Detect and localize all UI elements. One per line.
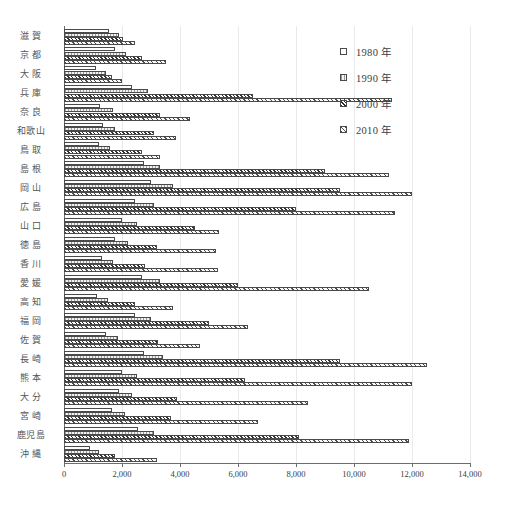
- legend-label: 1980 年: [356, 44, 391, 59]
- x-tick: [122, 463, 123, 467]
- x-tick-label: 0: [62, 469, 66, 479]
- x-tick-label: 2,000: [112, 469, 131, 479]
- horizontal-bar-chart: 02,0004,0006,0008,00010,00012,00014,000 …: [0, 0, 511, 520]
- y-axis-category-label: 宮 崎: [2, 409, 60, 422]
- y-axis-category-label: 大 阪: [2, 67, 60, 80]
- y-axis-category-label: 愛 媛: [2, 276, 60, 289]
- x-axis-line: [64, 463, 471, 464]
- y-axis-category-label: 長 崎: [2, 352, 60, 365]
- bar-group-row: 鹿児島: [64, 424, 470, 443]
- bar-group-row: 熊 本: [64, 367, 470, 386]
- bar-group-row: 和歌山: [64, 121, 470, 140]
- y-axis-category-label: 岡 山: [2, 181, 60, 194]
- legend-label: 1990 年: [356, 70, 391, 85]
- legend-item: 1980 年: [340, 38, 391, 64]
- bar-group-row: 香 川: [64, 253, 470, 272]
- legend-swatch-icon: [340, 48, 347, 55]
- x-tick-label: 14,000: [458, 469, 481, 479]
- x-tick: [180, 463, 181, 467]
- legend-item: 2000 年: [340, 90, 391, 116]
- bar-group-row: 大 阪: [64, 64, 470, 83]
- y-axis-category-label: 滋 賀: [2, 29, 60, 42]
- bar-group-row: 高 知: [64, 291, 470, 310]
- x-tick: [296, 463, 297, 467]
- x-tick-label: 8,000: [286, 469, 305, 479]
- y-axis-category-label: 奈 良: [2, 105, 60, 118]
- bar-group-row: 宮 崎: [64, 405, 470, 424]
- y-axis-category-label: 兵 庫: [2, 86, 60, 99]
- bar-group-row: 徳 島: [64, 235, 470, 254]
- y-axis-category-label: 熊 本: [2, 371, 60, 384]
- x-tick: [412, 463, 413, 467]
- x-tick: [238, 463, 239, 467]
- bar-group-row: 鳥 取: [64, 140, 470, 159]
- y-axis-category-label: 沖 縄: [2, 447, 60, 460]
- y-axis-category-label: 島 根: [2, 162, 60, 175]
- legend-item: 2010 年: [340, 116, 391, 142]
- legend-swatch-icon: [340, 100, 347, 107]
- y-axis-category-label: 広 島: [2, 200, 60, 213]
- bar-group-row: 愛 媛: [64, 272, 470, 291]
- y-axis-category-label: 高 知: [2, 295, 60, 308]
- bar-group-row: 広 島: [64, 197, 470, 216]
- x-tick: [64, 463, 65, 467]
- y-axis-category-label: 鹿児島: [2, 428, 60, 441]
- bar-group-row: 山 口: [64, 216, 470, 235]
- bar-group-row: 滋 賀: [64, 26, 470, 45]
- y-axis-category-label: 和歌山: [2, 124, 60, 137]
- bar-group-row: 福 岡: [64, 310, 470, 329]
- legend-swatch-icon: [340, 74, 347, 81]
- bar-group-row: 奈 良: [64, 102, 470, 121]
- bar-group-row: 佐 賀: [64, 329, 470, 348]
- bar-2010: [64, 458, 157, 462]
- x-tick-label: 12,000: [400, 469, 423, 479]
- bar-group-row: 京 都: [64, 45, 470, 64]
- legend-label: 2010 年: [356, 122, 391, 137]
- y-axis-category-label: 福 岡: [2, 314, 60, 327]
- y-axis-category-label: 大 分: [2, 390, 60, 403]
- bar-group-row: 岡 山: [64, 178, 470, 197]
- y-axis-category-label: 山 口: [2, 219, 60, 232]
- plot-area: 滋 賀京 都大 阪兵 庫奈 良和歌山鳥 取島 根岡 山広 島山 口徳 島香 川愛…: [64, 26, 470, 462]
- y-axis-category-label: 香 川: [2, 257, 60, 270]
- bar-group-row: 長 崎: [64, 348, 470, 367]
- legend: 1980 年1990 年2000 年2010 年: [340, 38, 391, 142]
- gridline: [470, 26, 471, 463]
- legend-label: 2000 年: [356, 96, 391, 111]
- y-axis-category-label: 鳥 取: [2, 143, 60, 156]
- legend-item: 1990 年: [340, 64, 391, 90]
- x-tick-label: 10,000: [342, 469, 365, 479]
- bar-group-row: 兵 庫: [64, 83, 470, 102]
- x-tick: [470, 463, 471, 467]
- bar-group-row: 沖 縄: [64, 443, 470, 462]
- y-axis-category-label: 京 都: [2, 48, 60, 61]
- x-tick: [354, 463, 355, 467]
- y-axis-category-label: 徳 島: [2, 238, 60, 251]
- legend-swatch-icon: [340, 126, 347, 133]
- x-tick-label: 4,000: [170, 469, 189, 479]
- x-tick-label: 6,000: [228, 469, 247, 479]
- bar-group-row: 大 分: [64, 386, 470, 405]
- y-axis-category-label: 佐 賀: [2, 333, 60, 346]
- bar-group-row: 島 根: [64, 159, 470, 178]
